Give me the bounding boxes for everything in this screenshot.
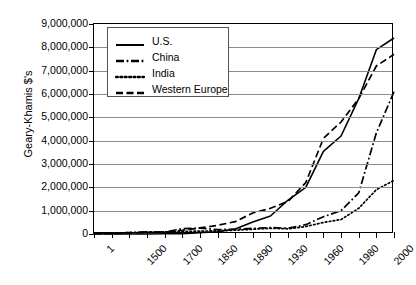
x-tick-label: 2000 (391, 242, 416, 267)
legend-label: India (152, 68, 175, 79)
x-tick-label: 1850 (215, 242, 240, 267)
legend-label: Western Europe (152, 84, 228, 95)
legend-swatch-icon (115, 36, 145, 46)
legend-item: Western Europe (108, 81, 228, 97)
legend-swatch-icon (115, 84, 145, 94)
legend-item: U.S. (108, 33, 228, 49)
legend-label: U.S. (152, 36, 172, 47)
x-tick-label: 1960 (321, 242, 346, 267)
legend-item: India (108, 65, 228, 81)
legend-swatch-icon (115, 68, 145, 78)
x-tick-label: 1700 (179, 242, 204, 267)
x-tick-label: 1980 (356, 242, 381, 267)
x-tick-label: 1930 (285, 242, 310, 267)
x-tick-label: 1890 (250, 242, 275, 267)
x-tick-label: 1 (104, 242, 117, 255)
legend-item: China (108, 49, 228, 65)
legend-label: China (152, 52, 179, 63)
legend: U.S.ChinaIndiaWestern Europe (107, 27, 229, 97)
x-tick-label: 1500 (144, 242, 169, 267)
legend-swatch-icon (115, 52, 145, 62)
